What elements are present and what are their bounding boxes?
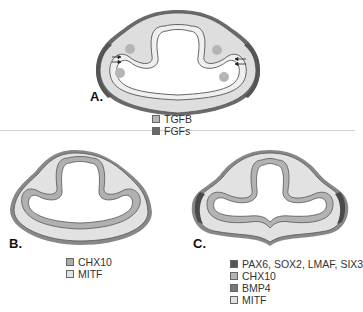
tgfb-swatch <box>152 115 160 123</box>
fgfs-swatch <box>152 127 160 135</box>
bmp4-swatch <box>230 284 238 292</box>
legend-label: MITF <box>78 268 103 280</box>
legend-label: BMP4 <box>242 282 271 294</box>
chx10-swatch <box>66 258 74 266</box>
panel-a-legend: TGFB FGFs <box>152 113 192 137</box>
legend-label: CHX10 <box>242 270 276 282</box>
panel-c-label: C. <box>193 236 206 251</box>
mitf-swatch <box>230 296 238 304</box>
panel-a-tgfb-spot <box>115 68 125 78</box>
panel-b-legend: CHX10 MITF <box>66 256 112 280</box>
legend-item-bmp4: BMP4 <box>230 282 363 294</box>
legend-item-mitf: MITF <box>66 268 112 280</box>
panel-a-label: A. <box>90 89 103 104</box>
panel-a-tgfb-spot <box>212 45 222 55</box>
panel-b-diagram <box>10 150 152 245</box>
legend-label: PAX6, SOX2, LMAF, SIX3 <box>242 258 363 270</box>
pax6-swatch <box>230 260 238 268</box>
legend-label: TGFB <box>164 113 192 125</box>
panel-b-label: B. <box>9 236 22 251</box>
panel-c-diagram <box>192 150 349 246</box>
legend-item-pax6-sox2-lmaf-six3: PAX6, SOX2, LMAF, SIX3 <box>230 258 363 270</box>
panel-a-tgfb-spot <box>125 44 135 54</box>
chx10-swatch <box>230 272 238 280</box>
panel-a-tgfb-spot <box>219 72 229 82</box>
mitf-swatch <box>66 270 74 278</box>
legend-item-chx10: CHX10 <box>66 256 112 268</box>
legend-label: MITF <box>242 294 267 306</box>
legend-item-fgfs: FGFs <box>152 125 192 137</box>
panel-c-legend: PAX6, SOX2, LMAF, SIX3 CHX10 BMP4 MITF <box>230 258 363 306</box>
legend-item-tgfb: TGFB <box>152 113 192 125</box>
legend-label: CHX10 <box>78 256 112 268</box>
legend-item-mitf: MITF <box>230 294 363 306</box>
legend-label: FGFs <box>164 125 190 137</box>
legend-item-chx10: CHX10 <box>230 270 363 282</box>
